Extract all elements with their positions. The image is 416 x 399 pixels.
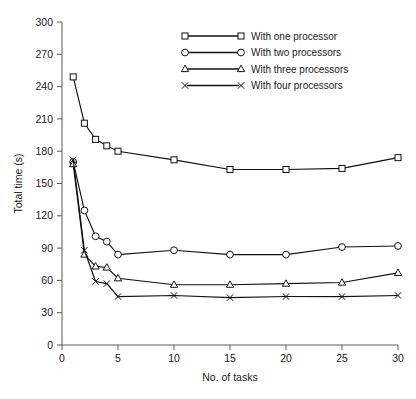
- chart-figure: 0306090120150180210240270300051015202530…: [0, 0, 416, 399]
- data-point: [115, 148, 121, 154]
- circle-marker: [238, 49, 245, 56]
- square-marker: [93, 136, 99, 142]
- data-point: [171, 157, 177, 163]
- legend-marker-left: [182, 33, 188, 39]
- legend-label-1: With two processors: [251, 47, 341, 58]
- x-tick-label-0: 0: [59, 352, 65, 364]
- circle-marker: [115, 251, 122, 258]
- line-chart: 0306090120150180210240270300051015202530…: [0, 0, 416, 399]
- series-line-1: [73, 162, 398, 255]
- y-tick-label-210: 210: [35, 113, 53, 125]
- series-line-2: [73, 164, 398, 285]
- circle-marker: [92, 233, 99, 240]
- x-tick-label-20: 20: [280, 352, 292, 364]
- x-tick-label-25: 25: [336, 352, 348, 364]
- square-marker: [182, 33, 188, 39]
- legend-item-0: With one processor: [182, 31, 338, 42]
- data-point: [395, 155, 401, 161]
- data-point: [115, 251, 122, 258]
- legend-item-2: With three processors: [181, 64, 348, 75]
- data-point: [93, 136, 99, 142]
- y-axis-title: Total time (s): [12, 153, 24, 213]
- legend-label-0: With one processor: [251, 31, 338, 42]
- y-tick-label-0: 0: [47, 339, 53, 351]
- data-point: [339, 165, 345, 171]
- data-point: [339, 244, 346, 251]
- square-marker: [115, 148, 121, 154]
- circle-marker: [283, 251, 290, 258]
- data-point: [92, 233, 99, 240]
- square-marker: [70, 74, 76, 80]
- data-point: [70, 74, 76, 80]
- series-triangle: [70, 160, 402, 287]
- y-tick-label-300: 300: [35, 16, 53, 28]
- square-marker: [81, 120, 87, 126]
- circle-marker: [395, 243, 402, 250]
- triangle-marker: [394, 269, 401, 275]
- data-point: [394, 269, 401, 275]
- data-point: [104, 143, 110, 149]
- circle-marker: [182, 49, 189, 56]
- circle-marker: [103, 238, 110, 245]
- circle-marker: [171, 247, 178, 254]
- legend-marker-right: [238, 49, 245, 56]
- legend-marker-right: [238, 33, 244, 39]
- series-square: [70, 74, 401, 173]
- square-marker: [395, 155, 401, 161]
- y-tick-label-180: 180: [35, 145, 53, 157]
- circle-marker: [227, 251, 234, 258]
- y-tick-label-60: 60: [41, 274, 53, 286]
- legend-item-1: With two processors: [182, 47, 341, 58]
- series-line-3: [73, 160, 398, 298]
- data-point: [283, 251, 290, 258]
- circle-marker: [339, 244, 346, 251]
- square-marker: [283, 167, 289, 173]
- y-tick-label-30: 30: [41, 306, 53, 318]
- x-tick-label-10: 10: [168, 352, 180, 364]
- data-point: [81, 120, 87, 126]
- series-circle: [70, 159, 402, 258]
- legend-label-3: With four processors: [251, 80, 343, 91]
- y-tick-label-90: 90: [41, 242, 53, 254]
- x-tick-label-5: 5: [115, 352, 121, 364]
- square-marker: [171, 157, 177, 163]
- y-tick-label-120: 120: [35, 209, 53, 221]
- y-tick-label-150: 150: [35, 177, 53, 189]
- x-tick-label-30: 30: [392, 352, 404, 364]
- x-tick-label-15: 15: [224, 352, 236, 364]
- data-point: [103, 238, 110, 245]
- data-point: [227, 167, 233, 173]
- square-marker: [227, 167, 233, 173]
- legend-marker-left: [182, 49, 189, 56]
- data-point: [395, 243, 402, 250]
- circle-marker: [81, 207, 88, 214]
- x-axis-title: No. of tasks: [202, 371, 257, 383]
- data-point: [227, 251, 234, 258]
- data-point: [81, 207, 88, 214]
- legend-item-3: With four processors: [182, 80, 343, 91]
- y-tick-label-270: 270: [35, 48, 53, 60]
- legend-label-2: With three processors: [251, 64, 348, 75]
- square-marker: [238, 33, 244, 39]
- square-marker: [104, 143, 110, 149]
- data-point: [171, 247, 178, 254]
- series-line-0: [73, 77, 398, 170]
- square-marker: [339, 165, 345, 171]
- chart-legend: With one processorWith two processorsWit…: [181, 31, 348, 92]
- data-point: [283, 167, 289, 173]
- y-tick-label-240: 240: [35, 80, 53, 92]
